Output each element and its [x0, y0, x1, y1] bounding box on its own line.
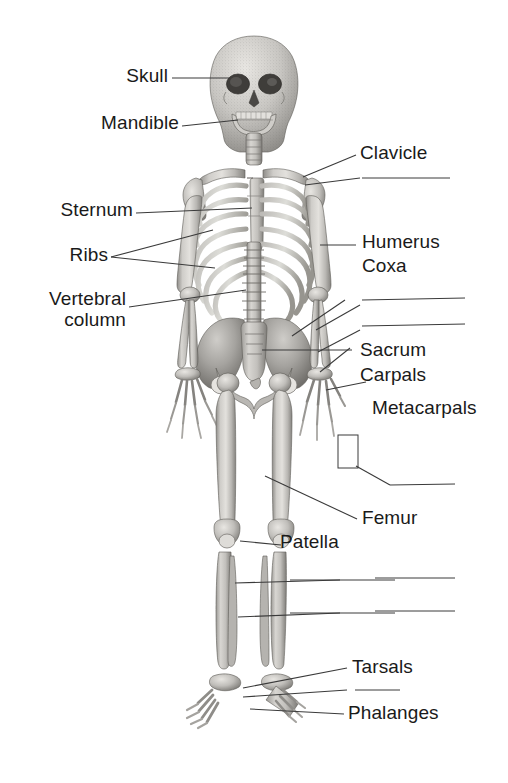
leader-femur	[265, 476, 357, 519]
label-coxa: Coxa	[362, 256, 407, 276]
leader-ribs-upper	[111, 230, 213, 257]
label-vertebral-line1: Vertebral	[49, 288, 126, 309]
label-tarsals: Tarsals	[352, 657, 413, 677]
blank-line-hand	[390, 484, 455, 485]
label-carpals: Carpals	[360, 365, 426, 385]
leader-blank-hand	[356, 466, 390, 485]
leader-blank-forearm2	[318, 330, 360, 352]
leader-sternum	[136, 208, 252, 213]
leader-tarsals	[243, 668, 347, 688]
label-phalanges: Phalanges	[348, 703, 439, 723]
blank-line-forearm2	[362, 324, 465, 326]
blank-line-forearm	[362, 298, 465, 300]
leader-blank-forearm	[316, 305, 360, 330]
leader-patella	[240, 541, 281, 545]
label-patella: Patella	[280, 532, 339, 552]
label-humerus: Humerus	[362, 232, 440, 252]
label-ribs: Ribs	[70, 245, 108, 265]
label-sacrum: Sacrum	[360, 340, 426, 360]
label-skull: Skull	[126, 66, 168, 86]
label-metacarpals: Metacarpals	[372, 398, 477, 418]
leader-ribs-lower	[111, 257, 215, 268]
leader-blank-metatarsals	[243, 690, 347, 697]
label-mandible: Mandible	[101, 113, 179, 133]
skeleton-diagram: Skull Mandible Sternum Ribs Vertebral co…	[0, 0, 508, 783]
leader-blank-shoulder	[305, 178, 360, 185]
label-vertebral-column: Vertebral column	[49, 288, 126, 331]
leader-blank-fibula	[238, 613, 340, 617]
leader-mandible	[182, 120, 238, 126]
label-vertebral-line2: column	[49, 309, 126, 330]
label-clavicle: Clavicle	[360, 143, 427, 163]
leader-phalanges	[250, 709, 344, 714]
leader-carpals	[320, 348, 350, 372]
label-femur: Femur	[362, 508, 417, 528]
leader-clavicle	[303, 155, 356, 177]
label-sternum: Sternum	[60, 200, 133, 220]
leader-vertebral	[129, 290, 246, 307]
hand-callout-box	[338, 435, 358, 468]
leader-line-layer	[0, 0, 508, 783]
